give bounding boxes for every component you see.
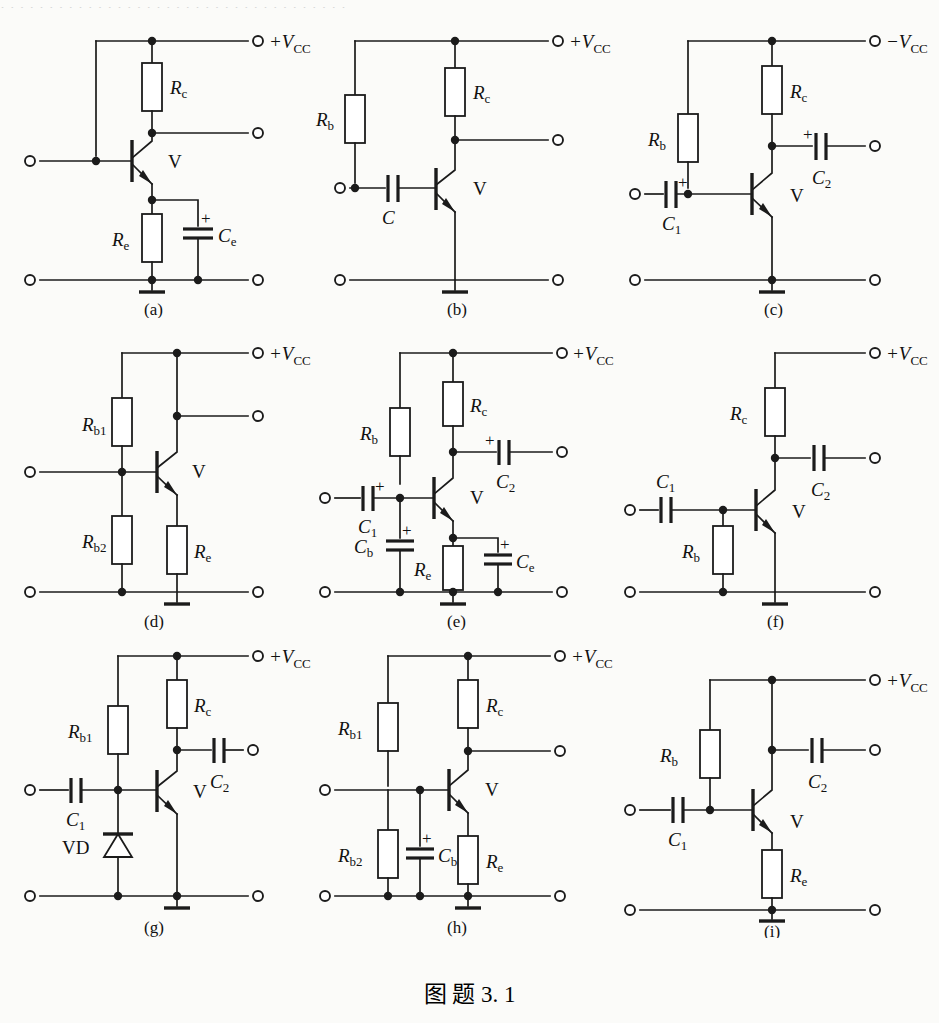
- subcaption-e: (e): [447, 612, 466, 630]
- label-c2-c: C2: [812, 167, 831, 191]
- label-rb-i: Rb: [659, 745, 678, 769]
- emitter-arrow-d: [164, 481, 177, 495]
- terminal-out-b[interactable]: [553, 135, 563, 145]
- supply-label-a: +VCC: [269, 31, 311, 56]
- transistor-label-a: V: [168, 151, 182, 172]
- label-re-h: Re: [485, 851, 504, 875]
- label-rc-h: Rc: [485, 695, 504, 719]
- terminal-vcc-b[interactable]: [553, 36, 563, 46]
- terminal-gnd-right-d[interactable]: [253, 587, 263, 597]
- terminal-gnd-left-g[interactable]: [25, 891, 35, 901]
- label-c1-f: C1: [656, 471, 675, 495]
- label-ce-a: Ce: [218, 225, 237, 249]
- terminal-out-d[interactable]: [253, 411, 263, 421]
- resistor-re-e: [443, 546, 463, 590]
- terminal-vcc-f[interactable]: [870, 348, 880, 358]
- terminal-gnd-left-e[interactable]: [320, 587, 330, 597]
- terminal-gnd-right-i[interactable]: [870, 905, 880, 915]
- label-rc-c: Rc: [789, 81, 808, 105]
- terminal-gnd-right-a[interactable]: [253, 275, 263, 285]
- terminal-in-g[interactable]: [25, 785, 35, 795]
- terminal-gnd-right-g[interactable]: [253, 891, 263, 901]
- transistor-label-h: V: [485, 779, 499, 800]
- terminal-gnd-left-a[interactable]: [25, 275, 35, 285]
- subcaption-h: (h): [447, 918, 467, 937]
- terminal-vcc-i[interactable]: [870, 675, 880, 685]
- circuit-panel-d: +VCC Rb1 V Rb2 Re: [0, 330, 320, 630]
- label-cb-h: Cb: [438, 845, 457, 869]
- terminal-in-e[interactable]: [320, 493, 330, 503]
- page-top-cut-text: · · · · · · · · · · · · · · · · · · · · …: [0, 0, 939, 8]
- terminal-vcc-g[interactable]: [253, 651, 263, 661]
- terminal-out-h[interactable]: [555, 746, 565, 756]
- terminal-out-e[interactable]: [557, 447, 567, 457]
- transistor-label-f: V: [792, 501, 806, 522]
- terminal-gnd-right-c[interactable]: [870, 275, 880, 285]
- terminal-in-i[interactable]: [625, 805, 635, 815]
- terminal-gnd-right-e[interactable]: [557, 587, 567, 597]
- resistor-re-d: [167, 526, 187, 574]
- supply-label-g: +VCC: [269, 646, 311, 671]
- resistor-rc-b: [445, 68, 465, 116]
- label-rb2-d: Rb2: [81, 531, 107, 555]
- resistor-rb-b: [345, 95, 365, 143]
- terminal-vcc-h[interactable]: [555, 651, 565, 661]
- terminal-out-a[interactable]: [253, 128, 263, 138]
- label-c2-g: C2: [210, 771, 229, 795]
- resistor-rc-c: [762, 66, 782, 114]
- label-rc-b: Rc: [472, 82, 491, 106]
- resistor-rc-f: [765, 388, 785, 436]
- terminal-gnd-left-i[interactable]: [625, 905, 635, 915]
- resistor-rb-f: [713, 526, 733, 574]
- terminal-gnd-left-c[interactable]: [630, 275, 640, 285]
- terminal-in-b[interactable]: [335, 183, 345, 193]
- label-rc-f: Rc: [729, 403, 748, 427]
- label-re-e: Re: [413, 559, 432, 583]
- label-c1-c: C1: [662, 213, 681, 237]
- transistor-label-c: V: [790, 185, 804, 206]
- label-c1-g: C1: [66, 809, 85, 833]
- terminal-vcc-d[interactable]: [253, 348, 263, 358]
- label-rb-b: Rb: [315, 109, 334, 133]
- transistor-label-d: V: [192, 461, 206, 482]
- terminal-gnd-left-b[interactable]: [335, 275, 345, 285]
- supply-label-c: −VCC: [886, 31, 928, 56]
- resistor-rb2-h: [378, 830, 398, 878]
- terminal-gnd-left-d[interactable]: [25, 587, 35, 597]
- terminal-gnd-left-f[interactable]: [625, 587, 635, 597]
- subcaption-a: (a): [144, 300, 163, 318]
- terminal-in-c[interactable]: [630, 189, 640, 199]
- terminal-in-d[interactable]: [25, 467, 35, 477]
- resistor-rb-i: [700, 730, 720, 778]
- circuit-panel-i: +VCC Rb C2 C1: [620, 638, 939, 938]
- terminal-out-f[interactable]: [870, 453, 880, 463]
- terminal-in-h[interactable]: [320, 785, 330, 795]
- subcaption-d: (d): [144, 612, 164, 630]
- label-rb-e: Rb: [359, 423, 378, 447]
- terminal-gnd-right-f[interactable]: [870, 587, 880, 597]
- terminal-gnd-right-h[interactable]: [555, 891, 565, 901]
- terminal-gnd-left-h[interactable]: [320, 891, 330, 901]
- polarity-plus-cb-e: +: [402, 521, 412, 540]
- label-c2-i: C2: [808, 771, 827, 795]
- resistor-rb-e: [390, 408, 410, 456]
- terminal-gnd-right-b[interactable]: [553, 275, 563, 285]
- transistor-label-b: V: [473, 178, 487, 199]
- figure-caption-text: 图 题 3. 1: [424, 982, 516, 1007]
- terminal-out-i[interactable]: [870, 745, 880, 755]
- resistor-rb1-h: [378, 703, 398, 751]
- resistor-rc-a: [142, 63, 162, 111]
- circuit-panel-e: +VCC Rb Rc + C2 +: [310, 330, 630, 630]
- resistor-re-h: [458, 836, 478, 884]
- subcaption-f: (f): [767, 612, 784, 630]
- label-rb1-h: Rb1: [337, 718, 363, 742]
- terminal-out-g[interactable]: [248, 745, 258, 755]
- terminal-in-a[interactable]: [25, 156, 35, 166]
- terminal-in-f[interactable]: [625, 505, 635, 515]
- terminal-vcc-c[interactable]: [870, 36, 880, 46]
- terminal-vcc-e[interactable]: [557, 348, 567, 358]
- terminal-out-c[interactable]: [870, 141, 880, 151]
- resistor-re-a: [142, 214, 162, 262]
- label-rc-a: Rc: [169, 77, 188, 101]
- terminal-vcc-a[interactable]: [253, 36, 263, 46]
